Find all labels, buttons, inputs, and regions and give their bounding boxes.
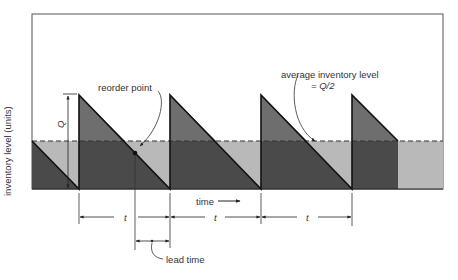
average-level-label-line1: average inventory level (281, 70, 379, 80)
cycle-label-2: t (214, 213, 217, 223)
lead-time-pointer (151, 243, 163, 259)
reorder-point-dot (133, 151, 138, 156)
cycle-label-3: t (306, 213, 309, 223)
reorder-point-label: reorder point (98, 83, 152, 93)
y-axis-label: inventory level (units) (2, 106, 13, 196)
time-label: time (196, 197, 214, 207)
cycle-label-1: t (124, 213, 127, 223)
lead-time-label: lead time (166, 255, 205, 265)
q-label: Q (56, 121, 66, 128)
average-level-label-line2: = Q/2 (311, 81, 335, 91)
diagram-canvas (0, 0, 458, 280)
inventory-sawtooth-diagram: inventory level (units) Q reorder point … (0, 0, 458, 280)
